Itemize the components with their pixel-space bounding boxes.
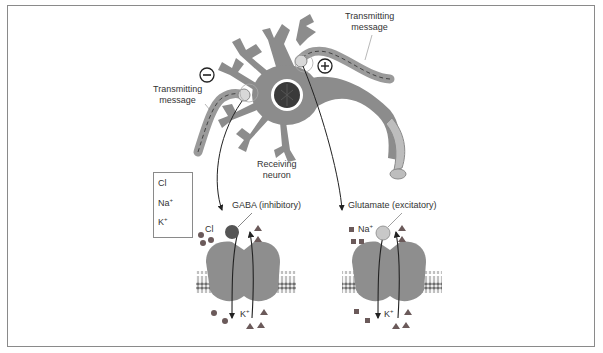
ion-charge: + xyxy=(246,308,250,314)
gaba-channel xyxy=(206,232,280,318)
legend-ion-name: Na xyxy=(158,198,170,208)
legend-ion-charge: + xyxy=(164,216,168,222)
label-line: neuron xyxy=(257,170,297,181)
minus-sign-icon xyxy=(200,68,214,82)
glutamate-molecule xyxy=(376,226,390,240)
transmitting-message-right-label: Transmitting message xyxy=(345,11,394,33)
legend-row-k: K+ xyxy=(158,217,168,227)
gaba-k-label: K+ xyxy=(240,309,250,320)
legend-row-cl: Cl xyxy=(158,178,167,188)
label-line: Transmitting xyxy=(153,84,202,95)
nucleus xyxy=(271,79,303,111)
receiving-neuron-label: Receiving neuron xyxy=(257,159,297,181)
glutamate-k-label: K+ xyxy=(384,309,394,320)
label-line: Transmitting xyxy=(345,11,394,22)
gaba-cl-label: Cl xyxy=(205,224,214,235)
gaba-label: GABA (inhibitory) xyxy=(232,200,301,211)
inhibitory-synapse xyxy=(238,89,250,101)
transmitting-message-left-label: Transmitting message xyxy=(153,84,202,106)
label-line: Receiving xyxy=(257,159,297,170)
ion-legend: Cl Na+ K+ xyxy=(153,172,193,238)
glutamate-channel xyxy=(352,232,426,318)
ion-charge: + xyxy=(390,308,394,314)
ion-name: Cl xyxy=(205,224,214,234)
legend-ion-charge: + xyxy=(170,197,174,203)
legend-ion-name: Cl xyxy=(158,178,167,188)
plus-sign-icon xyxy=(318,59,332,73)
glutamate-na-label: Na+ xyxy=(358,224,373,235)
ion-name: Na xyxy=(358,224,370,234)
legend-row-na: Na+ xyxy=(158,198,173,208)
label-line: message xyxy=(345,22,394,33)
ion-charge: + xyxy=(370,223,374,229)
right-axon xyxy=(302,51,390,79)
excitatory-synapse xyxy=(295,55,307,67)
glutamate-label: Glutamate (excitatory) xyxy=(348,200,437,211)
left-axon xyxy=(198,94,240,152)
label-line: message xyxy=(153,95,202,106)
neuron-diagram-graphic xyxy=(0,0,603,353)
gaba-molecule xyxy=(225,225,239,239)
